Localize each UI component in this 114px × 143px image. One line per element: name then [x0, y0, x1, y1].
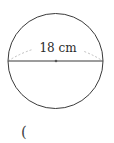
answer-parenthesis: (	[21, 123, 27, 141]
center-dot	[55, 60, 58, 63]
circle-diagram	[0, 0, 114, 143]
diameter-label: 18 cm	[33, 41, 83, 55]
